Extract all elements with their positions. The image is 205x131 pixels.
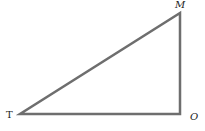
triangle-TOM — [20, 13, 180, 114]
vertex-label-o: O — [190, 111, 198, 122]
vertex-label-t: T — [6, 109, 13, 120]
vertex-label-m: M — [174, 0, 186, 10]
triangle-diagram: T O M — [0, 0, 205, 131]
